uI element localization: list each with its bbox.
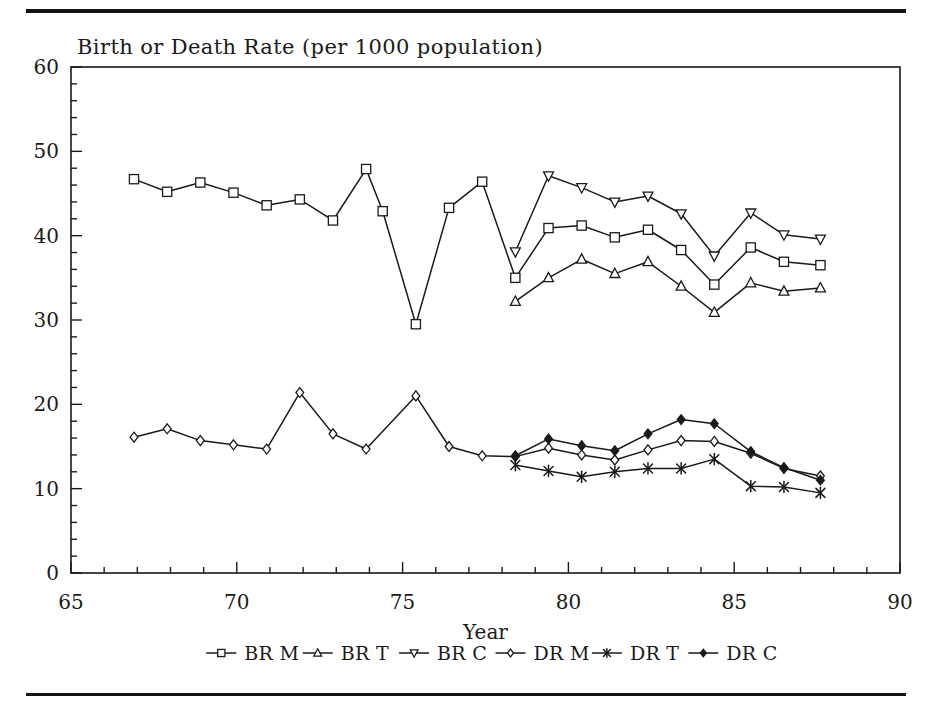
data-point xyxy=(262,201,271,210)
data-point xyxy=(577,254,587,263)
data-point xyxy=(163,187,172,196)
marker-square xyxy=(129,175,138,184)
marker-square xyxy=(328,216,337,225)
marker-triangle-down xyxy=(709,252,719,261)
y-axis-tick-label: 10 xyxy=(34,477,59,501)
data-point xyxy=(129,175,138,184)
marker-diamond xyxy=(710,436,718,446)
data-point xyxy=(578,441,586,451)
chart-text-layer: 6570758085900102030405060Birth or Death … xyxy=(34,35,913,644)
data-point xyxy=(746,277,756,286)
marker-diamond xyxy=(130,432,138,442)
y-axis-tick-label: 20 xyxy=(34,392,59,416)
marker-triangle-up xyxy=(746,277,756,286)
marker-diamond-filled xyxy=(578,441,586,451)
marker-square xyxy=(163,187,172,196)
marker-square xyxy=(295,195,304,204)
marker-triangle-up xyxy=(643,256,653,265)
data-point xyxy=(815,235,825,244)
marker-triangle-up xyxy=(709,307,719,316)
marker-square xyxy=(610,233,619,242)
marker-square xyxy=(677,245,686,254)
marker-square xyxy=(262,201,271,210)
data-point xyxy=(478,451,486,461)
marker-triangle-up xyxy=(815,283,825,292)
data-series-br-m xyxy=(129,164,825,328)
data-point xyxy=(643,256,653,265)
data-point xyxy=(544,223,553,232)
x-axis-tick-label: 85 xyxy=(721,590,746,614)
y-axis-tick-label: 50 xyxy=(34,139,59,163)
data-point xyxy=(130,432,138,442)
data-point xyxy=(677,436,685,446)
marker-diamond-filled xyxy=(644,429,652,439)
data-point xyxy=(710,436,718,446)
axes-layer xyxy=(71,67,900,573)
data-point xyxy=(644,429,652,439)
legend-entry-dr-c[interactable]: DR C xyxy=(688,642,777,664)
marker-square xyxy=(362,164,371,173)
legend-label: DR C xyxy=(726,642,777,664)
data-point xyxy=(411,320,420,329)
marker-square xyxy=(196,178,205,187)
legend-label: DR T xyxy=(630,642,679,664)
data-series-dr-t xyxy=(511,454,825,499)
data-point xyxy=(746,243,755,252)
series-line xyxy=(134,393,820,476)
data-point xyxy=(544,272,554,281)
data-point xyxy=(816,261,825,270)
data-series-br-c xyxy=(510,172,825,261)
y-axis-tick-label: 0 xyxy=(46,561,59,585)
marker-square xyxy=(444,203,453,212)
legend-entry-br-c[interactable]: BR C xyxy=(399,642,487,664)
legend-label: DR M xyxy=(534,642,590,664)
marker-diamond xyxy=(507,649,513,657)
y-axis-tick-label: 60 xyxy=(34,55,59,79)
plot-frame xyxy=(71,67,900,573)
marker-triangle-down xyxy=(815,235,825,244)
data-point xyxy=(709,307,719,316)
marker-diamond xyxy=(644,445,652,455)
marker-square xyxy=(544,223,553,232)
marker-triangle-up xyxy=(510,296,520,305)
x-axis-label: Year xyxy=(462,620,508,644)
marker-diamond-filled xyxy=(545,434,553,444)
data-point xyxy=(230,440,238,450)
marker-triangle-down xyxy=(610,198,620,207)
data-series-dr-m xyxy=(130,388,824,481)
marker-diamond-filled xyxy=(700,649,706,657)
data-point xyxy=(510,248,520,257)
marker-square xyxy=(577,221,586,230)
x-axis-tick-label: 70 xyxy=(224,590,249,614)
marker-diamond-filled xyxy=(677,415,685,425)
data-point xyxy=(444,203,453,212)
data-point xyxy=(644,445,652,455)
chart-title: Birth or Death Rate (per 1000 population… xyxy=(77,35,543,59)
marker-diamond-filled xyxy=(611,446,619,456)
data-point xyxy=(478,177,487,186)
legend-entry-br-t[interactable]: BR T xyxy=(303,642,389,664)
marker-diamond xyxy=(163,424,171,434)
marker-diamond xyxy=(196,436,204,446)
legend-marker xyxy=(218,649,225,656)
x-axis-tick-label: 80 xyxy=(556,590,581,614)
legend-marker xyxy=(507,649,513,657)
legend-label: BR C xyxy=(437,642,487,664)
data-point xyxy=(610,233,619,242)
legend-entry-br-m[interactable]: BR M xyxy=(206,642,299,664)
legend-entry-dr-m[interactable]: DR M xyxy=(496,642,590,664)
x-axis-tick-label: 90 xyxy=(887,590,912,614)
series-line xyxy=(515,259,820,312)
data-point xyxy=(362,164,371,173)
marker-diamond-filled xyxy=(710,419,718,429)
data-series-br-t xyxy=(510,254,825,316)
legend-marker xyxy=(700,649,706,657)
marker-triangle-up xyxy=(544,272,554,281)
data-point xyxy=(815,283,825,292)
marker-diamond-filled xyxy=(511,451,519,461)
marker-square xyxy=(779,257,788,266)
series-line xyxy=(515,176,820,256)
data-point xyxy=(709,252,719,261)
marker-square xyxy=(411,320,420,329)
legend-entry-dr-t[interactable]: DR T xyxy=(592,642,679,664)
